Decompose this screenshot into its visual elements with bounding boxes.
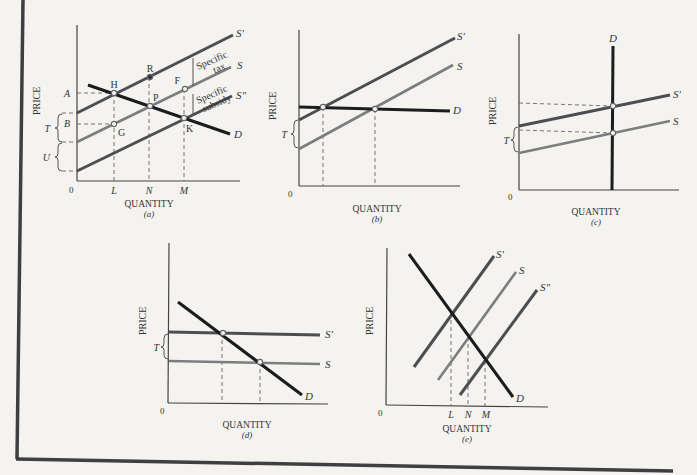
equilibrium-point-after-tax bbox=[320, 104, 325, 109]
panel-a: PRICE A B T U 0 L N M QUANTITY (a) S' S … bbox=[31, 25, 247, 219]
x-axis-label: QUANTITY bbox=[571, 207, 620, 217]
curve-label-s-double-prime: S" bbox=[236, 89, 247, 101]
supply-line bbox=[169, 361, 320, 364]
brace-t bbox=[161, 334, 168, 359]
curve-label-d: D bbox=[515, 392, 524, 404]
equilibrium-point-before-tax bbox=[257, 359, 262, 364]
tick-n: N bbox=[145, 185, 154, 196]
page-frame bbox=[16, 0, 673, 471]
y-axis-label: PRICE bbox=[31, 87, 42, 115]
tick-m: M bbox=[179, 185, 189, 196]
tick-l: L bbox=[110, 185, 117, 196]
origin-label: 0 bbox=[288, 189, 293, 199]
equilibrium-point-after-tax bbox=[610, 103, 615, 108]
label-r: R bbox=[147, 63, 154, 74]
brace-label-t: T bbox=[281, 129, 288, 140]
origin-label: 0 bbox=[160, 406, 165, 416]
tick-a: A bbox=[63, 88, 71, 99]
curve-label-d: D bbox=[233, 128, 242, 140]
label-k: K bbox=[186, 123, 194, 134]
figure-page: PRICE A B T U 0 L N M QUANTITY (a) S' S … bbox=[0, 0, 697, 475]
point-r bbox=[147, 74, 152, 79]
brace-label-t: T bbox=[44, 123, 51, 134]
panel-caption: (e) bbox=[462, 434, 472, 444]
y-axis-label: PRICE bbox=[364, 307, 375, 335]
equilibrium-point-before-tax bbox=[372, 106, 377, 111]
x-axis-label: QUANTITY bbox=[222, 420, 271, 430]
x-axis-label: QUANTITY bbox=[124, 199, 173, 209]
point-h bbox=[111, 90, 116, 95]
panel-e: PRICE 0 L N M QUANTITY (e) S' S S" D bbox=[364, 248, 551, 444]
y-axis bbox=[168, 243, 169, 403]
point-g bbox=[111, 121, 116, 126]
x-axis bbox=[168, 403, 328, 404]
panel-caption: (c) bbox=[591, 217, 601, 227]
curve-label-d: D bbox=[304, 390, 313, 402]
panel-b: PRICE T 0 QUANTITY (b) S' S D bbox=[267, 30, 466, 224]
y-axis bbox=[386, 248, 387, 405]
origin-label: 0 bbox=[508, 192, 513, 202]
equilibrium-point-before-tax bbox=[610, 130, 615, 135]
brace-label-u: U bbox=[43, 152, 51, 163]
demand-line bbox=[612, 46, 613, 190]
x-axis bbox=[386, 405, 548, 407]
supply-line bbox=[438, 272, 516, 380]
label-g: G bbox=[118, 127, 125, 138]
curve-label-s: S bbox=[457, 60, 463, 72]
curve-label-d: D bbox=[452, 104, 461, 116]
origin-label: 0 bbox=[378, 408, 383, 418]
demand-line bbox=[178, 302, 302, 395]
tick-m: M bbox=[481, 409, 491, 420]
brace-t bbox=[55, 114, 62, 142]
supply-with-tax-line bbox=[519, 95, 670, 126]
y-axis-label: PRICE bbox=[267, 92, 278, 120]
y-axis-label: PRICE bbox=[487, 97, 498, 125]
figure-canvas: PRICE A B T U 0 L N M QUANTITY (a) S' S … bbox=[0, 0, 697, 475]
brace-t bbox=[291, 120, 298, 148]
point-p bbox=[147, 103, 152, 108]
supply-with-tax-line bbox=[414, 256, 494, 367]
curve-label-s-double-prime: S" bbox=[540, 281, 551, 293]
curve-label-s: S bbox=[237, 59, 243, 71]
equilibrium-point-after-tax bbox=[220, 330, 225, 335]
curve-label-s: S bbox=[519, 264, 525, 276]
x-axis-label: QUANTITY bbox=[352, 204, 401, 214]
label-f: F bbox=[174, 75, 180, 86]
demand-line bbox=[409, 254, 513, 397]
supply-with-tax-line bbox=[169, 332, 320, 335]
brace-u bbox=[55, 143, 62, 171]
brace-label-t: T bbox=[503, 135, 510, 146]
brace-t bbox=[511, 127, 518, 152]
origin-label: 0 bbox=[69, 185, 74, 195]
curve-label-d: D bbox=[608, 32, 617, 44]
brace-label-t: T bbox=[153, 342, 160, 353]
curve-label-s-prime: S' bbox=[457, 30, 466, 42]
curve-label-s: S bbox=[673, 115, 679, 127]
curve-label-s-prime: S' bbox=[236, 27, 245, 39]
tick-b: B bbox=[64, 118, 70, 129]
curve-label-s-prime: S' bbox=[325, 328, 334, 340]
supply-line bbox=[519, 121, 670, 153]
x-axis-label: QUANTITY bbox=[442, 424, 491, 434]
panel-caption: (b) bbox=[372, 214, 383, 224]
label-p: P bbox=[153, 92, 159, 103]
panel-caption: (a) bbox=[144, 209, 155, 219]
panel-c: PRICE T 0 QUANTITY (c) D S' S bbox=[487, 32, 682, 227]
panel-caption: (d) bbox=[242, 430, 253, 440]
curve-label-s-prime: S' bbox=[496, 248, 505, 260]
tick-l: L bbox=[447, 409, 454, 420]
curve-label-s-prime: S' bbox=[673, 88, 682, 100]
label-h: H bbox=[110, 79, 117, 90]
y-axis-label: PRICE bbox=[137, 307, 148, 335]
curve-label-s: S bbox=[325, 358, 331, 370]
panel-d: PRICE T 0 QUANTITY (d) S' S D bbox=[137, 243, 334, 440]
tick-n: N bbox=[464, 409, 473, 420]
point-f bbox=[182, 86, 187, 91]
point-k bbox=[181, 115, 186, 120]
